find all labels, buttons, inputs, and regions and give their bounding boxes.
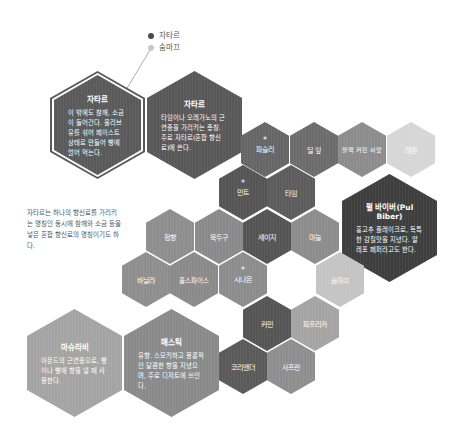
hex-title: 자타르: [87, 93, 108, 104]
star-icon: *: [241, 180, 245, 187]
hex-label: 숨마끄: [331, 275, 349, 285]
hex-label: 커민: [261, 319, 273, 329]
star-icon: *: [263, 137, 267, 144]
hex-label: 마늘: [309, 232, 321, 242]
hex-description: 타임이나 오레가노의 근연종을 가리키는 총칭. 주로 자타르(혼합 향신료)에…: [161, 113, 228, 153]
hex-label: 민트: [237, 187, 249, 197]
legend-label: 자타르: [159, 30, 180, 42]
hex-label: 블랙 커민 씨앗: [342, 145, 382, 154]
hex-title: 펄 바이버(Pul Biber): [356, 201, 423, 221]
legend-item-sumac: 숨마끄: [148, 42, 180, 54]
legend-dot-icon: [148, 33, 154, 39]
hex-label: 올스파이스: [179, 275, 209, 285]
legend-label: 숨마끄: [159, 42, 180, 54]
hex-description: 이 밖에도 참깨, 소금이 들어간다. 올리브유를 섞어 페이스트 상태로 만들…: [68, 108, 127, 158]
hex-label: 파슬리: [256, 144, 274, 154]
hex-title: 자타르: [184, 98, 205, 109]
legend: 자타르 숨마끄: [148, 30, 180, 54]
hex-label: 바닐라: [137, 275, 155, 285]
hex-label: 타임: [285, 188, 297, 198]
legend-dot-icon: [148, 45, 154, 51]
hex-label: 정향: [164, 232, 176, 242]
hex-title: 마슈라비: [61, 341, 89, 352]
note-text: 자타르는 하나의 향신료를 가리키는 명칭인 동시에 참깨와 소금 등을 넣은 …: [27, 208, 123, 252]
hex-description: 홍고추 플레이크로, 독특한 감칠맛을 지녔다. 알레포 페퍼라고도 한다.: [356, 225, 423, 255]
hex-label: 레몬: [405, 145, 417, 155]
hex-title: 매스틱: [161, 336, 182, 347]
hex-label: 파프리카: [303, 319, 327, 329]
star-icon: *: [241, 267, 245, 274]
hex-description: 유향. 스모키하고 몽롱적인 달콤한 향을 지녔으며, 주로 디저트에 쓰인다.: [138, 351, 205, 391]
hex-label: 딜 잎: [307, 145, 321, 155]
hex-label: 코리앤더: [231, 362, 255, 372]
hex-description: 아몬드의 근연종으로, 빵이나 빵에 향을 낼 때 사용한다.: [41, 356, 108, 386]
hex-label: 사프란: [282, 362, 300, 372]
hex-label: 육두구: [210, 232, 228, 242]
legend-item-zaatar: 자타르: [148, 30, 180, 42]
hex-label: 시나몬: [234, 274, 252, 284]
hex-label: 세이지: [258, 232, 276, 242]
